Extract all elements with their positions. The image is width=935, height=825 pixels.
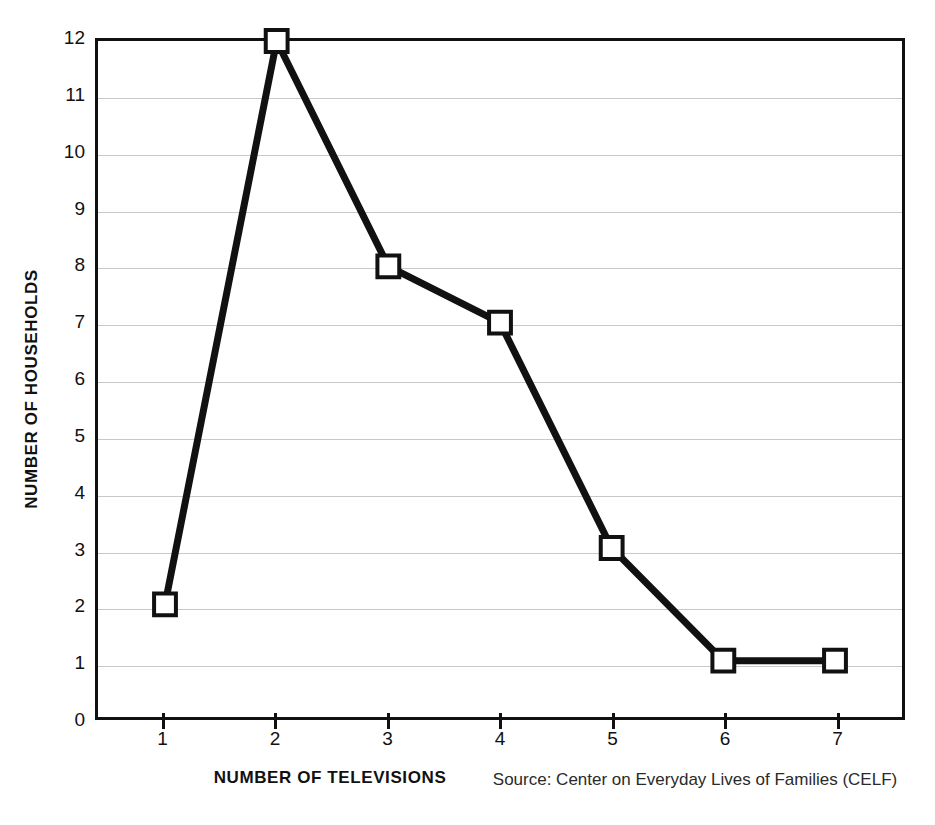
y-tick-label: 3 — [45, 539, 85, 561]
y-axis-tick-labels: 0123456789101112 — [37, 38, 85, 720]
x-tick-label: 3 — [368, 728, 408, 750]
data-point-marker — [601, 537, 623, 559]
x-tick-label: 1 — [143, 728, 183, 750]
x-tick-label: 2 — [255, 728, 295, 750]
y-tick-label: 6 — [45, 368, 85, 390]
x-tick-mark — [387, 713, 390, 729]
x-tick-mark — [162, 713, 165, 729]
source-note: Source: Center on Everyday Lives of Fami… — [470, 770, 920, 790]
line-series-layer — [98, 41, 902, 717]
y-tick-label: 7 — [45, 311, 85, 333]
x-tick-label: 7 — [818, 728, 858, 750]
x-tick-mark — [724, 713, 727, 729]
x-axis-tick-marks — [95, 713, 905, 729]
y-tick-label: 0 — [45, 709, 85, 731]
chart-figure: NUMBER OF HOUSEHOLDS 0123456789101112 12… — [0, 0, 935, 825]
x-tick-label: 5 — [593, 728, 633, 750]
data-point-marker — [266, 30, 288, 52]
x-tick-mark — [612, 713, 615, 729]
plot-area — [95, 38, 905, 720]
y-tick-label: 8 — [45, 254, 85, 276]
y-tick-label: 9 — [45, 198, 85, 220]
y-tick-label: 12 — [45, 27, 85, 49]
data-point-marker — [824, 650, 846, 672]
x-tick-mark — [274, 713, 277, 729]
data-point-marker — [712, 650, 734, 672]
y-tick-label: 1 — [45, 652, 85, 674]
data-line — [165, 41, 835, 661]
x-tick-mark — [499, 713, 502, 729]
x-tick-label: 4 — [480, 728, 520, 750]
data-point-marker — [489, 312, 511, 334]
data-point-marker — [377, 255, 399, 277]
x-axis-tick-labels: 1234567 — [95, 728, 905, 758]
y-tick-label: 4 — [45, 482, 85, 504]
y-tick-label: 2 — [45, 595, 85, 617]
x-tick-label: 6 — [705, 728, 745, 750]
y-tick-label: 5 — [45, 425, 85, 447]
x-tick-mark — [837, 713, 840, 729]
y-tick-label: 11 — [45, 84, 85, 106]
y-tick-label: 10 — [45, 141, 85, 163]
data-point-marker — [154, 593, 176, 615]
